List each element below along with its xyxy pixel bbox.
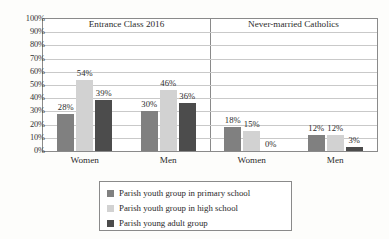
legend-item[interactable]: Parish young adult group [107,216,285,231]
bar-value-label: 28% [52,103,79,112]
y-axis-tick-label: 90% [5,28,45,36]
bar [95,100,112,151]
bar [346,147,363,151]
bar [308,135,325,151]
bar-value-label: 0% [257,140,284,149]
y-axis-tick-label: 60% [5,68,45,76]
category-label-men: Men [127,155,211,165]
legend-label: Parish youth group in primary school [119,189,250,198]
legend-swatch-icon [107,205,114,212]
y-axis-tick-label: 70% [5,55,45,63]
category-label-men: Men [294,155,378,165]
legend-swatch-icon [107,220,114,227]
bar-value-label: 36% [174,92,201,101]
bar [179,103,196,151]
bar-value-label: 30% [136,100,163,109]
bar [57,114,74,151]
panel-title-entrance-class: Entrance Class 2016 [43,19,210,29]
bar-value-label: 54% [71,69,98,78]
legend-swatch-icon [107,190,114,197]
bar-value-label: 46% [155,79,182,88]
y-axis-tick-label: 30% [5,107,45,115]
gridline [43,32,377,33]
y-axis-tick-label: 80% [5,41,45,49]
y-axis-tick-label: 10% [5,134,45,142]
bar-value-label: 12% [322,124,349,133]
y-axis-tick-label: 20% [5,121,45,129]
bar [141,111,158,151]
legend-label: Parish youth group in high school [119,204,238,213]
y-axis-tick-label: 40% [5,94,45,102]
bar-value-label: 39% [90,89,117,98]
bar-value-label: 15% [238,120,265,129]
y-axis-tick-label: 100% [5,15,45,23]
bar [224,127,241,151]
legend-item[interactable]: Parish youth group in primary school [107,186,285,201]
legend: Parish youth group in primary schoolPari… [99,181,292,231]
gridline [43,59,377,60]
category-label-women: Women [43,155,127,165]
bar-value-label: 3% [341,136,368,145]
category-label-women: Women [210,155,294,165]
panel-title-never-married: Never-married Catholics [210,19,377,29]
legend-item[interactable]: Parish youth group in high school [107,201,285,216]
y-axis-tick-label: 50% [5,81,45,89]
legend-label: Parish young adult group [119,219,208,228]
y-axis-tick-label: 0% [5,147,45,155]
gridline [43,45,377,46]
bar-chart: 100%90%80%70%60%50%40%30%20%10%0% Entran… [0,0,389,239]
